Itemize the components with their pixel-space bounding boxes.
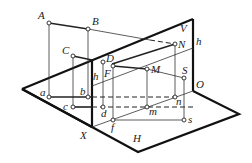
point-B <box>86 27 90 31</box>
label-c: c <box>63 100 68 112</box>
label-f: f <box>111 121 116 133</box>
label-N: N <box>177 38 186 50</box>
line-ab <box>49 23 88 29</box>
point-C <box>71 54 75 58</box>
projection-diagram: A B C D F M N S V h h O a b c d f m n s … <box>0 0 252 163</box>
label-F: F <box>103 67 111 79</box>
label-D: D <box>105 52 114 64</box>
label-C: C <box>62 44 70 56</box>
label-S: S <box>182 64 188 76</box>
label-M: M <box>150 63 161 75</box>
label-a: a <box>40 86 46 98</box>
point-c <box>71 105 75 109</box>
edge-to-n <box>112 44 175 64</box>
point-N <box>173 42 177 46</box>
label-d: d <box>101 107 107 119</box>
point-S <box>182 76 186 80</box>
point-M <box>145 67 149 71</box>
label-V: V <box>180 22 188 34</box>
label-O: O <box>196 78 204 90</box>
label-A: A <box>37 9 45 21</box>
point-s <box>182 118 186 122</box>
label-B: B <box>92 15 99 27</box>
label-H: H <box>132 132 142 144</box>
point-F <box>111 64 115 68</box>
point-b <box>86 95 90 99</box>
line-b-n-dashed <box>150 40 175 44</box>
label-h-left: h <box>93 70 99 82</box>
h-plane-outline <box>22 89 239 152</box>
point-A <box>47 21 51 25</box>
line-b-to-v <box>88 29 150 40</box>
line-c <box>73 56 92 60</box>
label-n: n <box>176 95 182 107</box>
label-h-right: h <box>196 35 202 47</box>
label-s: s <box>188 113 192 125</box>
label-m: m <box>149 105 157 117</box>
point-a <box>47 95 51 99</box>
label-b: b <box>80 85 86 97</box>
label-X: X <box>79 129 88 141</box>
point-D <box>101 60 105 64</box>
